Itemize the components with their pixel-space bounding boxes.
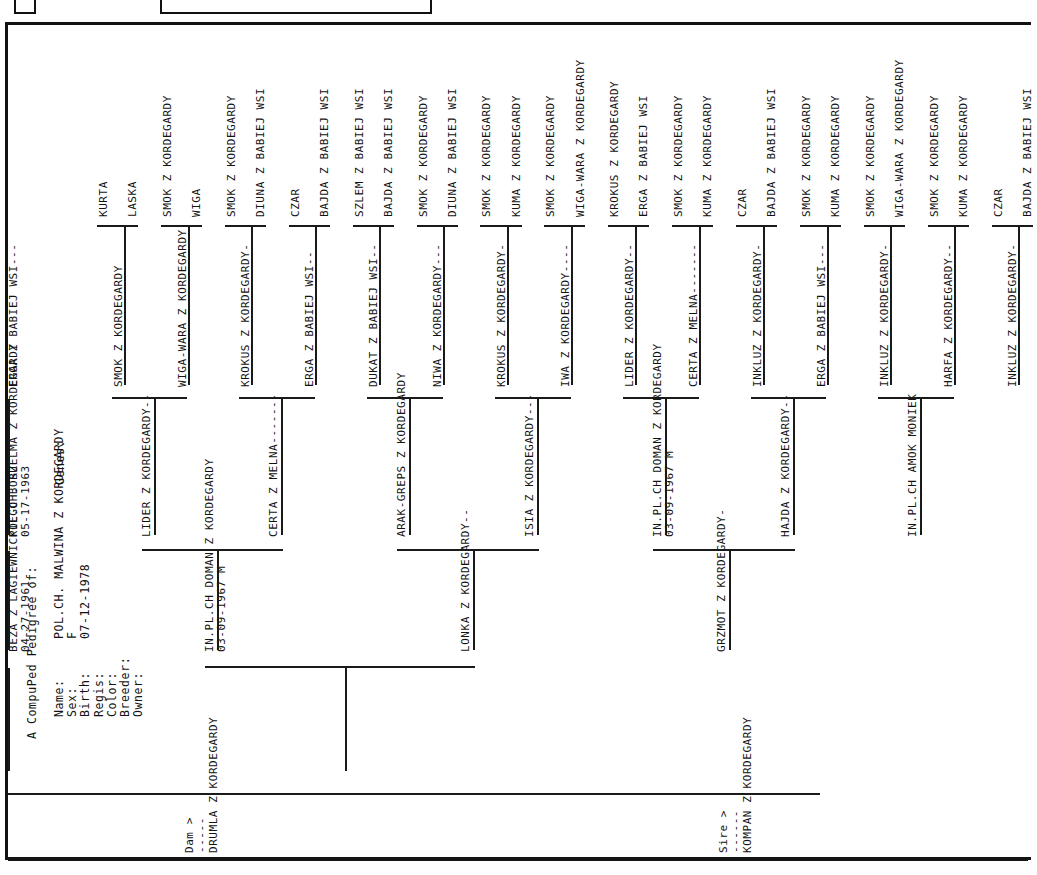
pedigree-node: SMOK Z KORDEGARDY: [481, 95, 492, 217]
connector-vertical: [864, 225, 905, 227]
pedigree-node: DIUNA Z BABIEJ WSI: [255, 88, 266, 217]
pedigree-node: GRZMOT Z KORDEGARDY-: [716, 509, 727, 652]
connector-horizontal: [890, 227, 892, 385]
connector-horizontal: [251, 227, 253, 385]
pedigree-node: IWA Z KORDEGARDY----: [560, 244, 571, 387]
connector-horizontal: [763, 227, 765, 385]
pedigree-node: SMOK Z KORDEGARDY: [801, 95, 812, 217]
pedigree-node: LIDER Z KORDEGARDY--: [141, 394, 152, 537]
pedigree-node: ERGA Z BABIEJ WSI---: [816, 244, 827, 387]
connector-vertical: [397, 549, 539, 551]
connector-horizontal: [124, 227, 126, 385]
connector-horizontal: [379, 227, 381, 385]
connector-horizontal: [8, 668, 10, 771]
pedigree-node: CZAR: [290, 188, 301, 217]
pedigree-node: DIUNA Z BABIEJ WSI: [447, 88, 458, 217]
pedigree-node: NIWA Z KORDEGARDY---: [432, 244, 443, 387]
pedigree-node: HARFA Z KORDEGARDY--: [943, 244, 954, 387]
pedigree-node: LIDER Z KORDEGARDY--: [624, 244, 635, 387]
pedigree-node: KUMA Z KORDEGARDY: [958, 95, 969, 217]
pedigree-node: BAJDA Z BABIEJ WSI: [1022, 88, 1033, 217]
connector-vertical: [225, 225, 266, 227]
connector-vertical: [205, 666, 475, 668]
connector-vertical: [544, 225, 585, 227]
pedigree-node: SMOK Z KORDEGARDY: [929, 95, 940, 217]
pedigree-node: ERGA Z BABIEJ WSI--: [304, 251, 315, 387]
pedigree-node: KUMA Z KORDEGARDY: [830, 95, 841, 217]
pedigree-node: BEZA Z LAGIEWNICKIEGO BORU04-27-1961: [8, 466, 31, 653]
connector-vertical: [161, 225, 202, 227]
connector-vertical: [417, 225, 458, 227]
connector-horizontal: [8, 551, 10, 650]
connector-vertical: [367, 397, 443, 399]
connector-horizontal: [729, 551, 731, 650]
connector-vertical: [608, 225, 649, 227]
pedigree-node: HAJDA Z KORDEGARDY--: [780, 394, 791, 537]
connector-horizontal: [954, 227, 956, 385]
pedigree-node: BAJDA Z BABIEJ WSI: [383, 88, 394, 217]
connector-vertical: [992, 225, 1033, 227]
connector-vertical: [480, 225, 521, 227]
connector-vertical: [736, 225, 777, 227]
rotated-document-viewport: A CompuPed Pedigree of: Name:POL.CH. MAL…: [8, 25, 1034, 857]
connector-vertical: [623, 397, 699, 399]
pedigree-node: SZLEM Z BABIEJ WSI: [354, 88, 365, 217]
pedigree-document: A CompuPed Pedigree of: Name:POL.CH. MAL…: [8, 25, 1034, 857]
pedigree-node: KUMA Z KORDEGARDY: [702, 95, 713, 217]
pedigree-node: LONKA Z KORDEGARDY--: [460, 509, 471, 652]
pedigree-node: IN.PL.CH DOMAN Z KORDEGARDY03-09-1967 M: [652, 343, 675, 537]
connector-vertical: [878, 397, 954, 399]
connector-horizontal: [793, 399, 795, 535]
pedigree-node: ISIA Z KORDEGARDY---: [524, 394, 535, 537]
connector-horizontal: [665, 399, 667, 535]
pedigree-sheet-frame: A CompuPed Pedigree of: Name:POL.CH. MAL…: [5, 22, 1031, 860]
pedigree-node: CZAR: [993, 188, 1004, 217]
connector-horizontal: [827, 227, 829, 385]
pedigree-node: IN.PL.CH AMOK MONIEK: [907, 394, 918, 537]
pedigree-node: KROKUS Z KORDEGARDY-: [240, 244, 251, 387]
pedigree-node: SMOK Z KORDEGARDY: [162, 95, 173, 217]
connector-horizontal: [188, 227, 190, 385]
connector-horizontal: [409, 399, 411, 535]
connector-vertical: [112, 397, 188, 399]
pedigree-node: CZAR: [737, 188, 748, 217]
connector-horizontal: [699, 227, 701, 385]
pedigree-node-detail: 04-27-1961: [20, 466, 31, 653]
pedigree-node: WIGA: [191, 188, 202, 217]
connector-vertical: [353, 225, 394, 227]
connector-vertical: [289, 225, 330, 227]
connector-vertical: [142, 549, 284, 551]
connector-horizontal: [571, 227, 573, 385]
pedigree-node: SMOK Z KORDEGARDY: [418, 95, 429, 217]
pedigree-node: SMOK Z KORDEGARDY: [226, 95, 237, 217]
pedigree-node: BAJDA Z BABIEJ WSI: [319, 88, 330, 217]
connector-horizontal: [154, 399, 156, 535]
connector-horizontal: [345, 668, 347, 771]
connector-vertical: [928, 225, 969, 227]
connector-horizontal: [537, 399, 539, 535]
pedigree-node: WIGA-WARA Z KORDEGARDY: [575, 59, 586, 217]
pedigree-node: KROKUS Z KORDEGARDY: [609, 81, 620, 217]
pedigree-node: KUMA Z KORDEGARDY: [511, 95, 522, 217]
connector-vertical: [751, 397, 827, 399]
pedigree-node: SMOK Z KORDEGARDY: [865, 95, 876, 217]
scan-mark-center: [160, 0, 432, 14]
pedigree-node: CERTA Z MELNA-------: [268, 394, 279, 537]
pedigree-node: INKLUZ Z KORDEGARDY-: [752, 244, 763, 387]
pedigree-node: BAJDA Z BABIEJ WSI: [766, 88, 777, 217]
pedigree-node: IN.PL.CH DOMAN Z KORDEGARDY03-09-1967 M: [204, 458, 227, 652]
connector-horizontal: [281, 399, 283, 535]
pedigree-node: SMOK Z KORDEGARDY: [545, 95, 556, 217]
connector-horizontal: [315, 227, 317, 385]
connector-horizontal: [443, 227, 445, 385]
scan-top-strip: [0, 0, 1037, 16]
connector-vertical: [800, 225, 841, 227]
pedigree-node: WIGA-WARA Z KORDEGARDY: [894, 59, 905, 217]
connector-vertical: [239, 397, 315, 399]
scan-mark-left: [14, 0, 36, 14]
pedigree-node: INKLUZ Z KORDEGARDY-: [1007, 244, 1018, 387]
pedigree-node: ERGA Z BABIEJ WSI: [638, 95, 649, 217]
pedigree-node: WIGA-WARA Z KORDEGARDY: [177, 229, 188, 387]
connector-vertical: [672, 225, 713, 227]
connector-horizontal: [507, 227, 509, 385]
